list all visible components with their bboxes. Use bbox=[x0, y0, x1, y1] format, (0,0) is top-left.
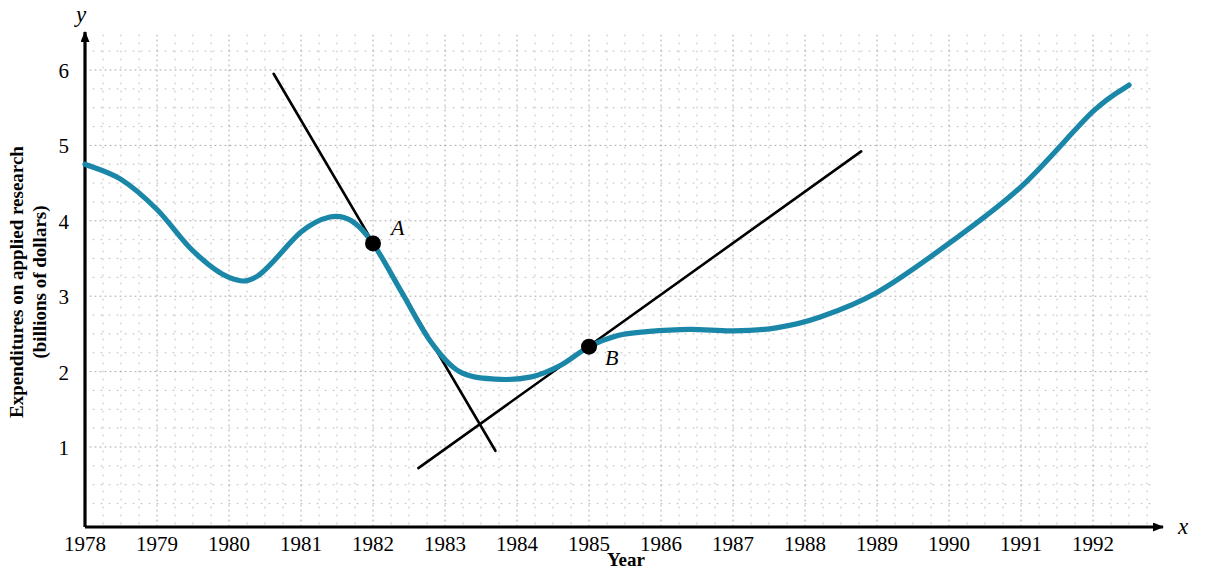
data-point-a bbox=[365, 235, 381, 251]
point-label-b: B bbox=[605, 345, 618, 370]
x-tick-label: 1986 bbox=[640, 532, 682, 556]
y-tick-label: 1 bbox=[59, 436, 70, 460]
y-tick-labels: 123456 bbox=[59, 59, 70, 460]
x-tick-label: 1982 bbox=[352, 532, 394, 556]
y-axis-title-line2: (billions of dollars) bbox=[29, 205, 51, 358]
x-tick-label: 1990 bbox=[928, 532, 970, 556]
x-tick-label: 1991 bbox=[1000, 532, 1042, 556]
x-tick-label: 1988 bbox=[784, 532, 826, 556]
x-axis-letter: x bbox=[1177, 514, 1189, 539]
data-curve bbox=[85, 85, 1129, 379]
x-tick-label: 1979 bbox=[136, 532, 178, 556]
point-label-a: A bbox=[389, 215, 405, 240]
data-point-b bbox=[581, 339, 597, 355]
y-tick-label: 2 bbox=[59, 361, 70, 385]
x-tick-label: 1987 bbox=[712, 532, 754, 556]
expenditures-line-chart: y x 123456 19781979198019811982198319841… bbox=[0, 0, 1205, 574]
data-line bbox=[85, 85, 1129, 379]
x-tick-label: 1983 bbox=[424, 532, 466, 556]
y-axis-title-line1: Expenditures on applied research bbox=[6, 146, 27, 418]
y-tick-label: 4 bbox=[59, 210, 70, 234]
y-tick-label: 6 bbox=[59, 59, 70, 83]
y-axis-letter: y bbox=[74, 2, 87, 27]
tangent-line-b bbox=[418, 151, 861, 468]
x-tick-labels: 1978197919801981198219831984198519861987… bbox=[64, 532, 1114, 556]
x-tick-label: 1984 bbox=[496, 532, 539, 556]
y-tick-label: 5 bbox=[59, 134, 70, 158]
y-tick-label: 3 bbox=[59, 285, 70, 309]
x-tick-label: 1981 bbox=[280, 532, 322, 556]
x-tick-label: 1978 bbox=[64, 532, 106, 556]
x-tick-label: 1980 bbox=[208, 532, 250, 556]
x-tick-label: 1992 bbox=[1072, 532, 1114, 556]
chart-figure: y x 123456 19781979198019811982198319841… bbox=[0, 0, 1205, 574]
x-axis-title: Year bbox=[607, 549, 646, 570]
x-tick-label: 1989 bbox=[856, 532, 898, 556]
x-tick-label: 1985 bbox=[568, 532, 610, 556]
